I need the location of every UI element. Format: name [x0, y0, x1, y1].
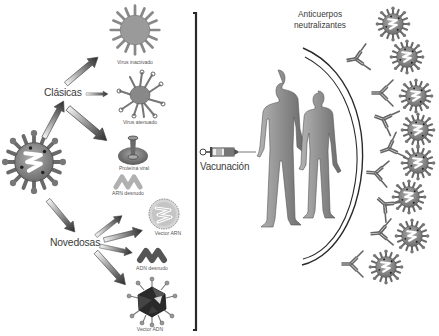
inactivated-virus-icon	[111, 6, 160, 55]
pathogen-virus-icon	[401, 113, 436, 148]
section-divider-bracket	[193, 13, 196, 330]
antibody-group	[342, 44, 405, 277]
pathogen-virus-icon	[395, 219, 430, 254]
label-antibodies-line1: Anticuerpos	[285, 8, 355, 19]
antibody-icon	[372, 80, 393, 106]
label-naked-dna: ADN desnudo	[127, 265, 178, 271]
label-dna-vector: Vector ADN	[125, 326, 176, 332]
viral-protein-icon	[118, 136, 148, 165]
label-inactivated-virus: Virus inactivado	[110, 59, 161, 65]
antibody-icon	[345, 44, 370, 73]
pathogen-virus-icon	[390, 40, 425, 75]
pathogen-virus-icon	[401, 146, 436, 181]
arrow-to-protein	[64, 103, 112, 146]
woman-figure	[299, 91, 341, 218]
source-virus-icon	[2, 130, 66, 194]
label-antibodies: Anticuerpos neutralizantes	[285, 8, 355, 30]
pathogen-virus-icon	[399, 79, 434, 114]
label-vaccination: Vacunación	[200, 160, 249, 172]
naked-dna-icon	[140, 251, 164, 260]
human-couple-icon	[257, 70, 341, 227]
arrow-to-naked-dna	[99, 242, 133, 258]
label-attenuated-virus: Virus atenuado	[115, 119, 166, 125]
pathogen-group	[369, 7, 436, 285]
antibody-icon	[370, 189, 403, 222]
pathogen-virus-icon	[392, 180, 427, 215]
label-rna-vector: Vector ARN	[143, 230, 194, 236]
branch-label-clasicas: Clásicas	[44, 86, 82, 98]
antibody-icon	[371, 104, 400, 136]
rna-vector-icon	[149, 199, 179, 229]
antibody-icon	[376, 132, 405, 164]
branch-label-novedosas: Novedosas	[50, 236, 100, 248]
arrow-source-to-clasicas	[39, 98, 69, 140]
label-antibodies-line2: neutralizantes	[285, 19, 355, 30]
dna-vector-icon	[127, 277, 177, 327]
antibody-icon	[342, 251, 363, 277]
pathogen-virus-icon	[369, 250, 404, 285]
arrow-to-inactivated	[62, 53, 101, 89]
arrow-to-attenuated	[86, 91, 108, 97]
naked-rna-icon	[116, 177, 140, 187]
arrow-source-to-novedosas	[44, 196, 80, 235]
label-viral-protein: Proteína viral	[109, 165, 160, 171]
label-naked-rna: ARN desnudo	[103, 190, 154, 196]
attenuated-virus-icon	[117, 70, 165, 118]
pathogen-virus-icon	[376, 7, 411, 42]
man-figure	[257, 70, 305, 227]
syringe-icon	[200, 147, 256, 157]
antibody-icon	[366, 159, 389, 187]
antibody-icon	[370, 219, 393, 247]
